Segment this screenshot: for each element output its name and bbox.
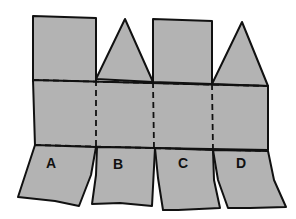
top-triangle-2 [96,19,153,82]
top-triangle-4 [212,22,268,86]
flap-label-c: C [178,155,188,171]
flap-label-d: D [236,155,246,171]
flap-label-a: A [46,155,56,171]
top-square-3 [153,19,212,84]
middle-band [33,80,268,150]
flap-a [18,145,96,206]
flap-label-b: B [113,156,123,172]
paper-net-diagram: A B C D [0,0,296,219]
top-square-1 [33,16,96,82]
flap-b [92,147,155,206]
flap-d [213,150,286,208]
